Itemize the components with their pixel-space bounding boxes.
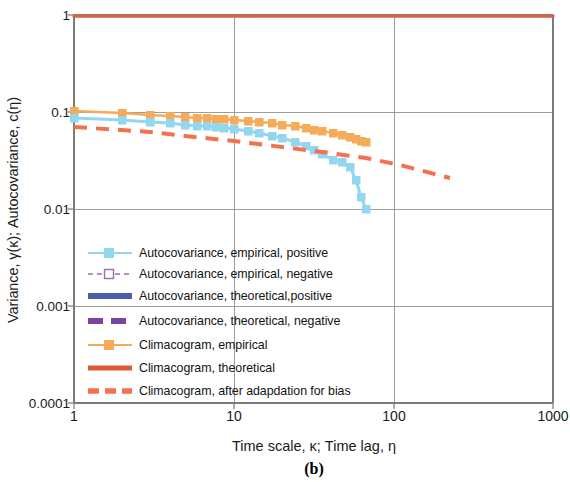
legend-label: Autocovariance, empirical, negative (139, 267, 333, 281)
legend-key-thick-line (88, 289, 132, 303)
legend-key-line-marker-square (88, 246, 132, 260)
legend-label: Climacogram, theoretical (139, 361, 275, 375)
legend-label: Autocovariance, empirical, positive (139, 246, 328, 260)
legend-item-autocovariance-theoretical-negative[interactable]: Autocovariance, theoretical, negative (88, 311, 340, 330)
legend-key-thick-dashed-line (88, 314, 132, 328)
panel-caption: (b) (74, 460, 554, 478)
legend-label: Autocovariance, theoretical,positive (139, 289, 332, 303)
legend-item-climacogram-empirical[interactable]: Climacogram, empirical (88, 335, 267, 354)
legend-label: Climacogram, after adapdation for bias (139, 384, 351, 398)
plot-canvas (0, 0, 570, 482)
legend-label: Climacogram, empirical (139, 338, 267, 352)
chart-figure: Variance, γ(κ); Autocovariance, c(η) 1 0… (0, 0, 570, 482)
legend-label: Autocovariance, theoretical, negative (139, 314, 340, 328)
legend-key-thick-dashed-line (88, 384, 132, 398)
legend-item-climacogram-theoretical[interactable]: Climacogram, theoretical (88, 358, 275, 377)
legend-key-dashed-marker-open-square (88, 267, 132, 281)
legend-item-climacogram-bias-adapted[interactable]: Climacogram, after adapdation for bias (88, 381, 351, 400)
legend-key-thick-line (88, 361, 132, 375)
legend-item-autocovariance-theoretical-positive[interactable]: Autocovariance, theoretical,positive (88, 286, 332, 305)
x-axis-label: Time scale, κ; Time lag, η (74, 438, 554, 454)
legend-key-line-marker-square (88, 338, 132, 352)
legend-item-autocovariance-empirical-positive[interactable]: Autocovariance, empirical, positive (88, 243, 328, 262)
legend-item-autocovariance-empirical-negative[interactable]: Autocovariance, empirical, negative (88, 264, 333, 283)
